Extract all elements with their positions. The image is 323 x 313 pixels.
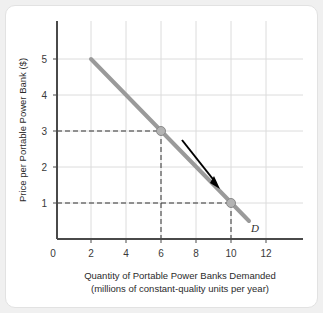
x-tick-label-4: 4	[123, 248, 129, 259]
x-tick-label-12: 12	[260, 248, 272, 259]
y-tick-label-5: 5	[41, 54, 47, 65]
vertical-gridlines	[91, 21, 266, 239]
y-tick-label-1: 1	[41, 198, 47, 209]
y-tick-label-2: 2	[41, 162, 47, 173]
chart-page: 5 4 3 2 1 0 2 4 6 8 10 12 D Price per Po…	[0, 0, 323, 313]
x-axis-title-line1: Quantity of Portable Power Banks Demande…	[84, 270, 276, 281]
x-tick-label-0: 0	[50, 248, 56, 259]
x-tick-label-6: 6	[158, 248, 164, 259]
x-tick-label-2: 2	[88, 248, 94, 259]
x-axis-title-line2: (millions of constant-quality units per …	[91, 283, 269, 294]
y-tick-labels: 5 4 3 2 1	[41, 54, 47, 209]
y-tick-label-4: 4	[41, 90, 47, 101]
demand-curve-line	[91, 59, 249, 221]
x-tick-labels: 0 2 4 6 8 10 12	[50, 248, 272, 259]
data-point-10-1	[227, 199, 236, 208]
x-tick-label-8: 8	[193, 248, 199, 259]
data-point-6-3	[157, 127, 166, 136]
guide-lines	[57, 131, 231, 239]
demand-curve-label: D	[250, 222, 259, 234]
movement-along-curve-arrow	[182, 140, 220, 189]
x-tick-label-10: 10	[225, 248, 237, 259]
y-tick-label-3: 3	[41, 126, 47, 137]
demand-curve-chart: 5 4 3 2 1 0 2 4 6 8 10 12 D Price per Po…	[6, 6, 319, 309]
y-axis-title: Price per Portable Power Bank ($)	[17, 58, 28, 202]
chart-card: 5 4 3 2 1 0 2 4 6 8 10 12 D Price per Po…	[5, 5, 318, 308]
